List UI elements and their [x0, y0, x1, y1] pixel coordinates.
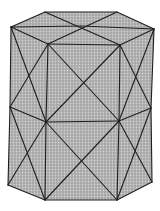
solid-silhouette: [8, 12, 154, 200]
polyhedron-diagram: [0, 0, 160, 211]
